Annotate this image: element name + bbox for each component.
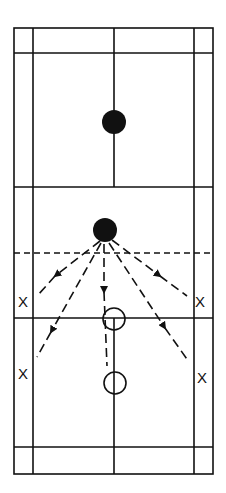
court-lines xyxy=(14,28,213,474)
x-marker: X xyxy=(195,294,205,309)
shot-arrow-extension xyxy=(38,276,55,295)
player-dot xyxy=(102,110,126,134)
x-marker: X xyxy=(18,294,28,309)
x-marker: X xyxy=(197,370,207,385)
players xyxy=(93,110,126,394)
shot-arrow-extension xyxy=(165,328,189,362)
shot-arrow xyxy=(55,241,100,276)
shot-arrow-extension xyxy=(104,292,107,366)
badminton-court-diagram xyxy=(0,0,226,493)
shot-arrow xyxy=(109,243,165,328)
shot-arrow-extension xyxy=(37,332,51,357)
x-marker: X xyxy=(18,366,28,381)
player-circle xyxy=(104,372,126,394)
shot-arrows xyxy=(37,240,189,366)
shot-arrow-extension xyxy=(160,276,187,296)
player-dot xyxy=(93,218,117,242)
